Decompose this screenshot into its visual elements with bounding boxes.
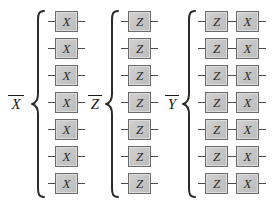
- wire-lead: [198, 129, 205, 130]
- table-row: Z: [121, 173, 158, 194]
- gate-x[interactable]: X: [55, 92, 78, 113]
- wire-lead: [198, 21, 205, 22]
- gate-x[interactable]: X: [236, 119, 259, 140]
- gate-x[interactable]: X: [236, 146, 259, 167]
- gate-z[interactable]: Z: [205, 11, 228, 32]
- wire-lead: [198, 156, 205, 157]
- table-row: X: [48, 173, 85, 194]
- gate-z[interactable]: Z: [128, 65, 151, 86]
- wire-lead: [121, 48, 128, 49]
- group-label-y-bar: Y: [165, 95, 179, 112]
- gate-z[interactable]: Z: [205, 65, 228, 86]
- group-label-z-bar: Z: [88, 95, 102, 112]
- wire-tail: [259, 102, 266, 103]
- logical-operator-figure: X X X X X: [0, 0, 277, 208]
- wire-mid: [228, 183, 236, 184]
- wire-lead: [198, 102, 205, 103]
- table-row: Z X: [198, 65, 266, 86]
- table-row: X: [48, 92, 85, 113]
- group-label-x-bar: X: [8, 95, 24, 112]
- wire-lead: [48, 48, 55, 49]
- table-row: X: [48, 146, 85, 167]
- group-label-y-glyph: Y: [165, 97, 179, 112]
- gate-z[interactable]: Z: [128, 92, 151, 113]
- wire-tail: [78, 102, 85, 103]
- gate-z[interactable]: Z: [205, 173, 228, 194]
- table-row: Z: [121, 92, 158, 113]
- table-row: Z X: [198, 11, 266, 32]
- wire-tail: [78, 156, 85, 157]
- brace-z-bar: [104, 8, 120, 200]
- gate-z[interactable]: Z: [128, 146, 151, 167]
- wire-lead: [48, 75, 55, 76]
- gate-x[interactable]: X: [236, 11, 259, 32]
- gate-z[interactable]: Z: [128, 11, 151, 32]
- wire-tail: [259, 21, 266, 22]
- table-row: Z: [121, 65, 158, 86]
- gate-x[interactable]: X: [236, 173, 259, 194]
- wire-lead: [121, 102, 128, 103]
- wire-tail: [151, 102, 158, 103]
- gate-z[interactable]: Z: [205, 146, 228, 167]
- wire-lead: [121, 183, 128, 184]
- wire-lead: [48, 21, 55, 22]
- wire-lead: [121, 21, 128, 22]
- wire-tail: [259, 156, 266, 157]
- table-row: Z: [121, 38, 158, 59]
- gate-z[interactable]: Z: [205, 119, 228, 140]
- table-row: Z X: [198, 119, 266, 140]
- group-label-x-glyph: X: [8, 97, 24, 112]
- table-row: Z: [121, 146, 158, 167]
- wire-lead: [48, 183, 55, 184]
- gate-x[interactable]: X: [236, 38, 259, 59]
- table-row: X: [48, 119, 85, 140]
- wire-tail: [259, 75, 266, 76]
- table-row: Z X: [198, 146, 266, 167]
- brace-x-bar: [30, 8, 46, 200]
- gate-z[interactable]: Z: [128, 38, 151, 59]
- gate-x[interactable]: X: [55, 11, 78, 32]
- wire-tail: [78, 129, 85, 130]
- table-row: X: [48, 38, 85, 59]
- wire-tail: [78, 21, 85, 22]
- wire-mid: [228, 75, 236, 76]
- gate-z[interactable]: Z: [205, 38, 228, 59]
- wire-mid: [228, 21, 236, 22]
- wire-lead: [121, 75, 128, 76]
- wire-mid: [228, 102, 236, 103]
- gate-x[interactable]: X: [55, 146, 78, 167]
- wire-tail: [78, 183, 85, 184]
- wire-lead: [198, 183, 205, 184]
- gate-x[interactable]: X: [236, 92, 259, 113]
- table-row: X: [48, 11, 85, 32]
- table-row: Z: [121, 119, 158, 140]
- wire-tail: [259, 48, 266, 49]
- wire-lead: [48, 156, 55, 157]
- wire-tail: [151, 75, 158, 76]
- wire-lead: [121, 129, 128, 130]
- wire-tail: [151, 21, 158, 22]
- wire-tail: [259, 183, 266, 184]
- gate-x[interactable]: X: [55, 173, 78, 194]
- gate-x[interactable]: X: [236, 65, 259, 86]
- wire-lead: [48, 129, 55, 130]
- wire-tail: [151, 48, 158, 49]
- gate-x[interactable]: X: [55, 65, 78, 86]
- wire-tail: [259, 129, 266, 130]
- wire-mid: [228, 129, 236, 130]
- brace-y-bar: [181, 8, 197, 200]
- gate-z[interactable]: Z: [205, 92, 228, 113]
- group-label-z-glyph: Z: [88, 97, 102, 112]
- wire-tail: [78, 48, 85, 49]
- gate-x[interactable]: X: [55, 38, 78, 59]
- gate-x[interactable]: X: [55, 119, 78, 140]
- table-row: Z X: [198, 173, 266, 194]
- wire-tail: [151, 156, 158, 157]
- table-row: Z: [121, 11, 158, 32]
- wire-mid: [228, 156, 236, 157]
- gate-z[interactable]: Z: [128, 119, 151, 140]
- table-row: Z X: [198, 92, 266, 113]
- wire-lead: [121, 156, 128, 157]
- wire-tail: [151, 183, 158, 184]
- gate-z[interactable]: Z: [128, 173, 151, 194]
